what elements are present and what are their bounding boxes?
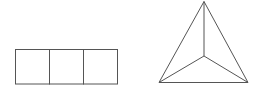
edge-to-center bbox=[159, 56, 204, 83]
three-square-strip bbox=[16, 50, 118, 85]
edge-to-center bbox=[204, 56, 248, 83]
triangle-figure bbox=[159, 2, 248, 83]
square-cell bbox=[50, 50, 84, 85]
square-cell bbox=[16, 50, 50, 85]
diagram-canvas bbox=[0, 0, 260, 91]
square-cell bbox=[84, 50, 118, 85]
